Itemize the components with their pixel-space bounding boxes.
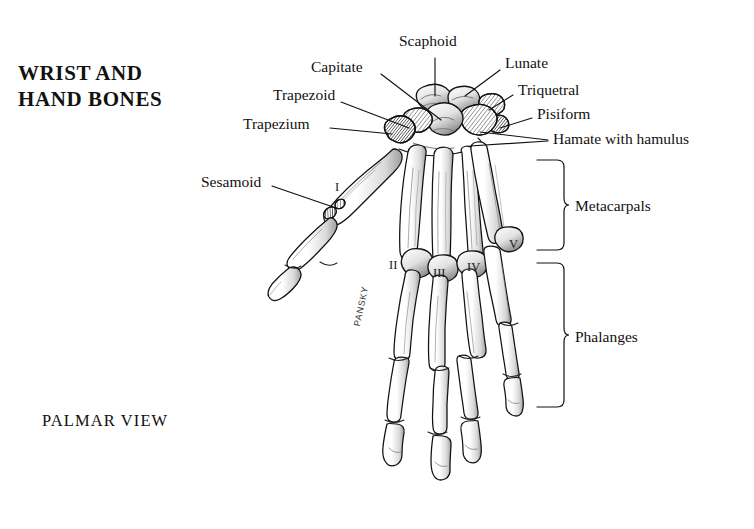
callout-sesamoid: Sesamoid bbox=[201, 173, 261, 190]
callout-trapezoid: Trapezoid bbox=[273, 86, 335, 103]
bracket-metacarpals bbox=[537, 160, 569, 250]
ray-numeral-iii: III bbox=[433, 266, 446, 281]
ray-numeral-iv: IV bbox=[467, 260, 480, 275]
bracket-label-metacarpals: Metacarpals bbox=[575, 197, 651, 215]
callout-triquetral: Triquetral bbox=[518, 81, 579, 98]
ray-numeral-i: I bbox=[335, 180, 339, 195]
bracket-label-phalanges: Phalanges bbox=[575, 328, 638, 346]
callout-trapezium: Trapezium bbox=[243, 115, 310, 132]
ray-numeral-v: V bbox=[509, 237, 518, 252]
callout-capitate: Capitate bbox=[311, 58, 363, 75]
callout-scaphoid: Scaphoid bbox=[399, 32, 457, 49]
ray-numeral-ii: II bbox=[389, 258, 397, 273]
callout-hamate-with-hamulus: Hamate with hamulus bbox=[553, 130, 689, 147]
grouping-brackets bbox=[0, 0, 754, 529]
wrist-and-hand-bones-figure: WRIST AND HAND BONES PALMAR VIEW bbox=[0, 0, 754, 529]
callout-pisiform: Pisiform bbox=[537, 105, 590, 122]
callout-lunate: Lunate bbox=[505, 54, 548, 71]
bracket-phalanges bbox=[537, 263, 569, 407]
